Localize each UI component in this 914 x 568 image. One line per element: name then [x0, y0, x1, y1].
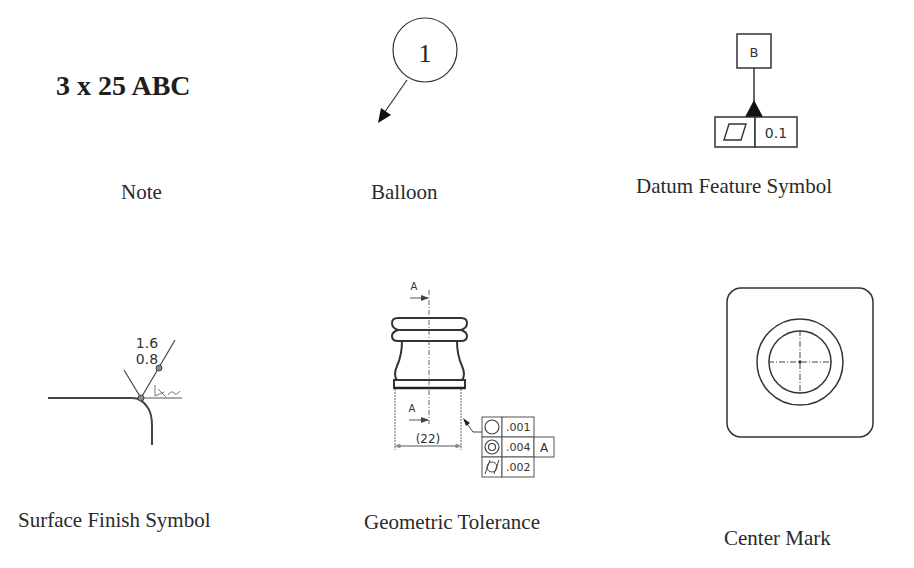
datum-label-bottom: A	[409, 403, 416, 414]
datum-label-top: A	[411, 281, 418, 292]
datum-tolerance-value: 0.1	[765, 125, 787, 141]
cursor-icon	[155, 385, 166, 397]
frame-datum-2: A	[540, 441, 549, 455]
frame-value-2: .004	[506, 441, 531, 454]
datum-feature-symbol-icon: B 0.1	[715, 34, 797, 147]
balloon-icon: 1	[378, 18, 457, 123]
datum-letter: B	[750, 45, 759, 60]
feature-control-frame: .001 .004 A .002	[482, 417, 554, 477]
frame-value-1: .001	[506, 421, 531, 434]
drawing-canvas: 1 B 0.1 1.6 0.8 A	[0, 0, 914, 568]
balloon-number: 1	[419, 39, 432, 68]
surface-finish-value-top: 1.6	[136, 335, 158, 351]
dimension-value: (22)	[416, 432, 441, 446]
geometric-tolerance-icon: A (22) A	[392, 281, 554, 477]
surface-finish-value-bottom: 0.8	[136, 351, 158, 367]
surface-finish-icon: 1.6 0.8	[48, 335, 182, 445]
frame-value-3: .002	[506, 461, 531, 474]
center-mark-icon	[727, 288, 873, 437]
